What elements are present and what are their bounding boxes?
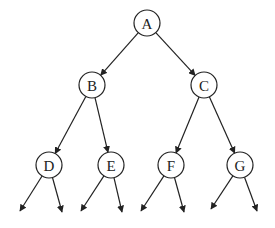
- node-b: B: [79, 72, 105, 98]
- edge-c-f-arrow: [176, 97, 199, 153]
- edge-a-b-arrow: [101, 33, 139, 76]
- node-label: A: [142, 16, 153, 32]
- node-label: C: [199, 78, 209, 94]
- node-f: F: [158, 152, 184, 178]
- edge-c-g-arrow: [209, 97, 234, 153]
- node-g: G: [227, 152, 253, 178]
- tree-diagram: ABCDEFG: [0, 0, 275, 228]
- node-e: E: [98, 152, 124, 178]
- edge-f-child-arrow: [141, 176, 164, 211]
- edge-g-child-arrow: [245, 177, 257, 211]
- node-label: E: [106, 158, 115, 174]
- edge-g-child-arrow: [211, 176, 233, 209]
- edge-b-d-arrow: [55, 96, 86, 153]
- node-d: D: [36, 152, 62, 178]
- nodes-layer: ABCDEFG: [36, 10, 253, 178]
- node-label: B: [87, 78, 97, 94]
- edge-e-child-arrow: [81, 176, 104, 211]
- tree-canvas: ABCDEFG: [0, 0, 275, 228]
- edge-d-child-arrow: [52, 178, 62, 212]
- node-a: A: [134, 10, 160, 36]
- node-label: F: [167, 158, 175, 174]
- node-label: G: [235, 158, 246, 174]
- node-label: D: [44, 158, 55, 174]
- edge-b-e-arrow: [95, 98, 108, 153]
- edge-f-child-arrow: [174, 178, 184, 212]
- node-c: C: [191, 72, 217, 98]
- edge-d-child-arrow: [20, 176, 42, 211]
- edges-layer: [20, 33, 257, 212]
- edge-a-c-arrow: [156, 33, 195, 76]
- edge-e-child-arrow: [114, 178, 122, 212]
